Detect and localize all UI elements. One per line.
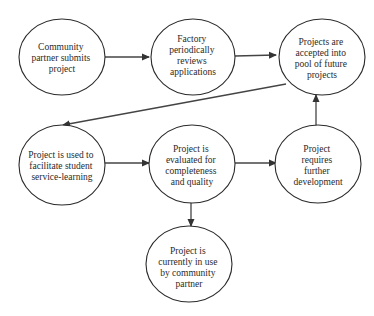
node-factory-reviews: Factory periodically reviews application… xyxy=(151,19,235,95)
node-accepted-into-pool: Projects are accepted into pool of futur… xyxy=(279,19,365,95)
node-in-use: Project is currently in use by community… xyxy=(146,226,232,302)
node-evaluated: Project is evaluated for completeness an… xyxy=(149,125,235,203)
edge-n2-n3 xyxy=(235,55,276,56)
flowchart-canvas: Community partner submits project Factor… xyxy=(0,0,374,316)
node-label: Project is evaluated for completeness an… xyxy=(165,144,219,187)
node-service-learning: Project is used to facilitate student se… xyxy=(19,125,105,205)
node-community-partner-submits: Community partner submits project xyxy=(19,19,105,95)
node-further-development: Project requires further development xyxy=(275,125,361,203)
node-label: Project is used to facilitate student se… xyxy=(28,150,96,182)
